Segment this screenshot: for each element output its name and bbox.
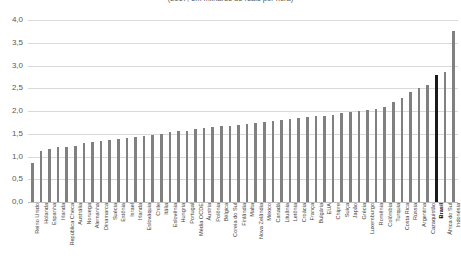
bar-slot — [294, 20, 303, 202]
x-label-slot: Argentina — [415, 203, 424, 273]
y-axis-tick-label: 2,0 — [12, 107, 23, 115]
x-label-slot: Holanda — [37, 203, 46, 273]
bar-slot — [54, 20, 63, 202]
bar — [194, 129, 197, 202]
x-label-slot: Dinamarca — [97, 203, 106, 273]
bar-slot — [217, 20, 226, 202]
bar — [160, 134, 163, 202]
plot-area — [28, 20, 458, 202]
bar-slot — [166, 20, 175, 202]
bar — [126, 138, 129, 202]
bar — [31, 163, 34, 202]
x-label-slot: EUA — [320, 203, 329, 273]
bar — [401, 98, 404, 202]
bar-slot — [251, 20, 260, 202]
bar-slot — [363, 20, 372, 202]
bar-slot — [62, 20, 71, 202]
bar — [143, 136, 146, 202]
bar-slot — [355, 20, 364, 202]
bar-slot — [312, 20, 321, 202]
bar-slot — [329, 20, 338, 202]
x-label-slot: Cazaquistão — [423, 203, 432, 273]
bar — [272, 121, 275, 202]
bar — [211, 127, 214, 202]
bar-slot — [191, 20, 200, 202]
x-label-slot: Portugal — [183, 203, 192, 273]
bar-slot — [105, 20, 114, 202]
x-label-slot: Polônia — [208, 203, 217, 273]
bar — [349, 112, 352, 202]
bar-slot — [432, 20, 441, 202]
bar-slot — [71, 20, 80, 202]
bar — [444, 72, 447, 202]
x-label-slot: Bulgária — [312, 203, 321, 273]
x-label-slot: Luxemburgo — [363, 203, 372, 273]
bar-slot — [114, 20, 123, 202]
y-axis-tick-label: 1,5 — [12, 130, 23, 138]
bar — [48, 149, 51, 202]
x-label-slot: Alemanha — [88, 203, 97, 273]
bar — [383, 107, 386, 202]
bar — [40, 151, 43, 202]
bar-slot — [441, 20, 450, 202]
bar — [74, 146, 77, 202]
y-axis-tick-label: 3,5 — [12, 39, 23, 47]
bar — [57, 147, 60, 202]
bar-slot — [423, 20, 432, 202]
x-label-slot: Turquia — [389, 203, 398, 273]
bar-slot — [148, 20, 157, 202]
x-label-slot: Itália — [157, 203, 166, 273]
bar-slot — [234, 20, 243, 202]
bar-slot — [123, 20, 132, 202]
x-label-slot: Austrália — [71, 203, 80, 273]
bar — [340, 113, 343, 202]
bar-chart: (2017, em milhares de reais por hora) 0,… — [0, 0, 461, 273]
x-label-slot: Lituânia — [277, 203, 286, 273]
x-label-slot: Romênia — [372, 203, 381, 273]
x-label-slot: Média OCDE — [191, 203, 200, 273]
chart-title: (2017, em milhares de reais por hora) — [0, 0, 461, 3]
x-label-slot: Brasil — [432, 203, 441, 273]
bar — [254, 123, 257, 202]
bar-slot — [174, 20, 183, 202]
bar — [220, 126, 223, 202]
bar-slot — [415, 20, 424, 202]
x-label-slot: Suécia — [105, 203, 114, 273]
x-label-slot: Malta — [243, 203, 252, 273]
bar — [280, 120, 283, 202]
bar — [306, 117, 309, 202]
bar — [177, 131, 180, 202]
x-label-slot: Japão — [346, 203, 355, 273]
x-label-slot: Reino Unido — [28, 203, 37, 273]
x-axis-labels: Reino UnidoHolandaEspanhaIrlandaRepúblic… — [28, 203, 458, 273]
x-label-slot: França — [303, 203, 312, 273]
bar — [409, 92, 412, 202]
bar — [134, 137, 137, 202]
x-label-slot: Letônia — [286, 203, 295, 273]
x-label-slot: México — [260, 203, 269, 273]
bar-slot — [380, 20, 389, 202]
bar-slot — [303, 20, 312, 202]
bar — [65, 147, 68, 203]
bar — [452, 31, 455, 202]
x-label-slot: Eslováquia — [140, 203, 149, 273]
bar-slot — [372, 20, 381, 202]
bar-slot — [157, 20, 166, 202]
x-label-slot: África do Sul — [441, 203, 450, 273]
x-label-slot: Hungria — [174, 203, 183, 273]
bar-slot — [286, 20, 295, 202]
x-label-slot: Irlanda — [54, 203, 63, 273]
y-axis-tick-label: 2,5 — [12, 84, 23, 92]
bar — [237, 125, 240, 202]
x-label-slot: Rússia — [406, 203, 415, 273]
bar — [366, 110, 369, 202]
bar — [117, 139, 120, 202]
bar-slot — [97, 20, 106, 202]
bar-series — [28, 20, 458, 202]
x-label-slot: Grécia — [355, 203, 364, 273]
bar-slot — [28, 20, 37, 202]
x-axis-tick-label: Indonésia — [456, 203, 461, 227]
bar — [358, 111, 361, 202]
bar-slot — [389, 20, 398, 202]
bar — [108, 140, 111, 202]
